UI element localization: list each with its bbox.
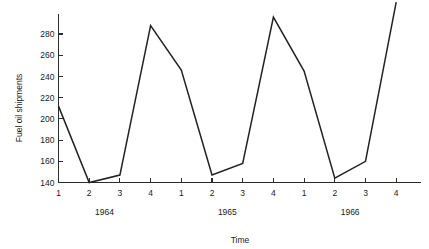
fuel-oil-shipments-series-line <box>59 2 397 182</box>
x-tick-label: 1 <box>56 188 61 198</box>
x-tick-label: 4 <box>394 188 399 198</box>
y-tick-label: 140 <box>40 178 54 188</box>
x-axis-ticks <box>89 178 396 183</box>
x-tick-label: 2 <box>332 188 337 198</box>
y-tick-label: 200 <box>40 114 54 124</box>
x-tick-label: 1 <box>179 188 184 198</box>
x-tick-label: 2 <box>210 188 215 198</box>
chart-canvas: 140160180200220240260280 123412341234 19… <box>0 0 429 249</box>
year-group-label: 1964 <box>95 207 114 217</box>
x-axis-title: Time <box>231 235 250 245</box>
year-group-labels: 196419651966 <box>95 207 360 217</box>
y-axis-tick-labels: 140160180200220240260280 <box>40 29 54 188</box>
x-tick-label: 3 <box>363 188 368 198</box>
plot-area <box>59 2 397 182</box>
x-axis: 123412341234 <box>56 178 421 198</box>
y-tick-label: 180 <box>40 135 54 145</box>
y-tick-label: 160 <box>40 156 54 166</box>
x-tick-label: 3 <box>118 188 123 198</box>
year-group-label: 1966 <box>341 207 360 217</box>
x-tick-label: 4 <box>148 188 153 198</box>
y-axis-title: Fuel oil shipments <box>14 74 24 143</box>
y-tick-label: 240 <box>40 72 54 82</box>
year-group-label: 1965 <box>218 207 237 217</box>
y-axis: 140160180200220240260280 <box>40 14 63 188</box>
x-tick-label: 2 <box>87 188 92 198</box>
x-axis-tick-labels: 123412341234 <box>56 188 399 198</box>
x-tick-label: 1 <box>302 188 307 198</box>
x-tick-label: 4 <box>271 188 276 198</box>
y-tick-label: 220 <box>40 93 54 103</box>
x-tick-label: 3 <box>240 188 245 198</box>
fuel-oil-shipments-line-chart: 140160180200220240260280 123412341234 19… <box>0 0 429 249</box>
y-tick-label: 280 <box>40 29 54 39</box>
y-tick-label: 260 <box>40 50 54 60</box>
